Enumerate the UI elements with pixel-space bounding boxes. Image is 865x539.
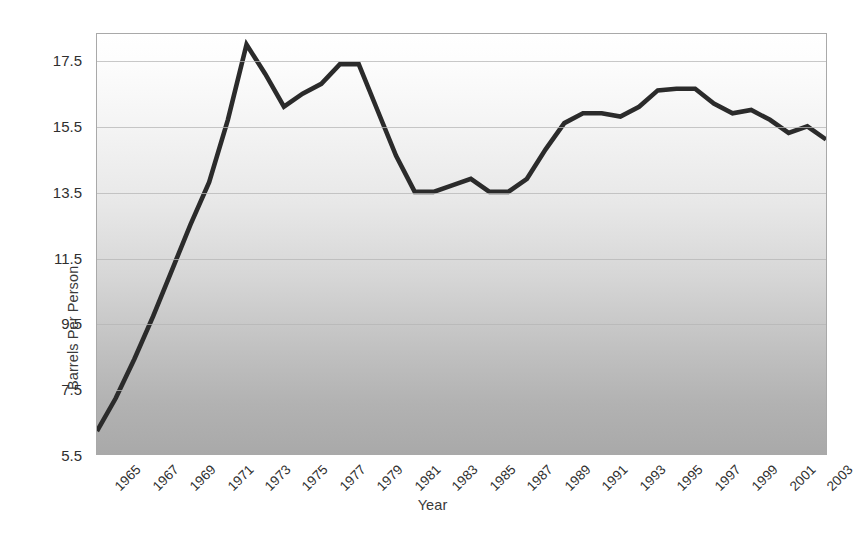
x-tick-label-1985: 1985 (487, 462, 519, 494)
x-axis-title: Year (0, 497, 865, 513)
x-tick-label-1991: 1991 (599, 462, 631, 494)
data-series-line (97, 44, 826, 431)
x-tick-label-1993: 1993 (637, 462, 669, 494)
gridline-y-11.5 (97, 259, 826, 260)
x-tick-label-1969: 1969 (187, 462, 219, 494)
plot-area (96, 33, 827, 455)
gridline-y-7.5 (97, 390, 826, 391)
x-tick-label-1995: 1995 (674, 462, 706, 494)
y-tick-label-7.5: 7.5 (2, 381, 82, 398)
x-tick-label-1999: 1999 (749, 462, 781, 494)
y-tick-label-13.5: 13.5 (2, 183, 82, 200)
gridline-y-17.5 (97, 61, 826, 62)
y-tick-label-15.5: 15.5 (2, 117, 82, 134)
x-tick-label-1987: 1987 (524, 462, 556, 494)
x-tick-label-2003: 2003 (824, 462, 856, 494)
gridline-y-15.5 (97, 127, 826, 128)
y-tick-label-11.5: 11.5 (2, 249, 82, 266)
x-tick-label-1979: 1979 (374, 462, 406, 494)
y-tick-label-9.5: 9.5 (2, 315, 82, 332)
y-axis-tick-labels: 5.57.59.511.513.515.517.5 (0, 0, 90, 539)
x-tick-label-1967: 1967 (149, 462, 181, 494)
y-tick-label-5.5: 5.5 (2, 447, 82, 464)
chart-container: Barrels Per Person 5.57.59.511.513.515.5… (0, 0, 865, 539)
x-tick-label-1975: 1975 (299, 462, 331, 494)
x-tick-label-1965: 1965 (112, 462, 144, 494)
gridline-y-13.5 (97, 193, 826, 194)
x-tick-label-1981: 1981 (412, 462, 444, 494)
x-tick-label-1983: 1983 (449, 462, 481, 494)
x-tick-label-1971: 1971 (224, 462, 256, 494)
x-tick-label-2001: 2001 (787, 462, 819, 494)
gridline-y-9.5 (97, 324, 826, 325)
y-tick-label-17.5: 17.5 (2, 52, 82, 69)
x-tick-label-1973: 1973 (262, 462, 294, 494)
x-tick-label-1989: 1989 (562, 462, 594, 494)
x-tick-label-1977: 1977 (337, 462, 369, 494)
x-tick-label-1997: 1997 (712, 462, 744, 494)
